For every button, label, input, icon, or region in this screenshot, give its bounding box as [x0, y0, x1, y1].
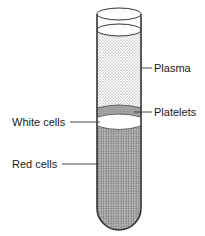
red-cells-label: Red cells — [12, 158, 57, 170]
plasma-layer — [96, 30, 142, 108]
liquid-surface — [97, 24, 141, 36]
tube-contents — [96, 30, 142, 236]
tube-rim — [97, 8, 141, 20]
red-cells-layer — [96, 126, 142, 236]
plasma-label: Plasma — [154, 62, 191, 74]
white-cells-layer — [96, 114, 142, 130]
white-cells-label: White cells — [12, 116, 65, 128]
platelets-label: Platelets — [154, 106, 196, 118]
